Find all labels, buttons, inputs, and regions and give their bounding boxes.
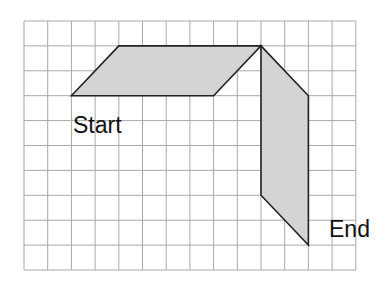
vertical-parallelogram: [261, 46, 308, 245]
end-label: End: [329, 216, 370, 242]
grid-diagram: Start End: [0, 0, 392, 285]
start-label: Start: [73, 112, 122, 138]
horizontal-parallelogram: [71, 46, 261, 96]
